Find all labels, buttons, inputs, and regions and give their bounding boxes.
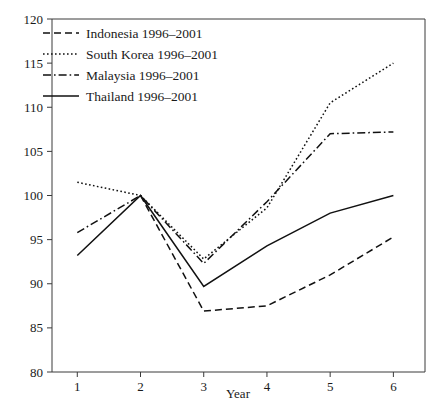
legend-label: Malaysia 1996–2001	[86, 68, 200, 83]
series-line	[77, 196, 393, 287]
chart-legend: Indonesia 1996–2001South Korea 1996–2001…	[43, 26, 218, 104]
y-tick-label: 80	[30, 365, 43, 380]
y-tick-label: 90	[30, 276, 43, 291]
line-chart: 80859095100105110115120 123456 Year Indo…	[0, 0, 437, 403]
legend-label: Thailand 1996–2001	[86, 89, 198, 104]
x-tick-label: 6	[390, 379, 397, 394]
legend-label: South Korea 1996–2001	[86, 47, 218, 62]
y-tick-label: 85	[30, 320, 43, 335]
x-tick-label: 4	[264, 379, 271, 394]
y-tick-label: 95	[30, 232, 43, 247]
x-axis-title: Year	[226, 386, 251, 401]
series-line	[77, 132, 393, 263]
x-tick-label: 1	[74, 379, 81, 394]
legend-label: Indonesia 1996–2001	[86, 26, 203, 41]
y-tick-label: 115	[24, 56, 43, 71]
series-line	[141, 196, 394, 312]
x-tick-label: 5	[327, 379, 334, 394]
y-tick-label: 100	[24, 188, 44, 203]
x-tick-label: 2	[137, 379, 144, 394]
y-tick-label: 120	[24, 12, 44, 27]
chart-canvas: 80859095100105110115120 123456 Year Indo…	[0, 0, 437, 403]
y-tick-label: 110	[24, 100, 43, 115]
y-axis-ticks: 80859095100105110115120	[24, 12, 53, 380]
y-tick-label: 105	[24, 144, 44, 159]
x-tick-label: 3	[200, 379, 207, 394]
